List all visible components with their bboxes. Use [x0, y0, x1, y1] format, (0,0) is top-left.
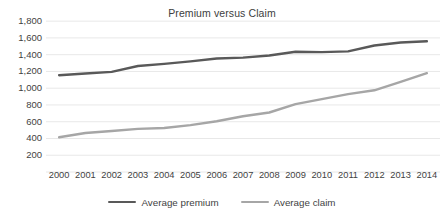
- x-axis-tick-label: 2014: [414, 170, 440, 186]
- x-axis-tick-label: 2013: [387, 170, 413, 186]
- chart-container: Premium versus Claim 2004006008001,0001,…: [0, 0, 444, 218]
- x-axis-tick-label: 2010: [309, 170, 335, 186]
- x-axis-tick-label: 2001: [72, 170, 98, 186]
- x-axis-tick-label: 2008: [256, 170, 282, 186]
- legend-label: Average claim: [274, 197, 336, 208]
- x-axis-tick-label: 2012: [361, 170, 387, 186]
- legend-swatch-icon: [108, 201, 136, 204]
- legend-label: Average premium: [141, 197, 218, 208]
- legend-item[interactable]: Average premium: [108, 197, 218, 208]
- x-axis-tick-label: 2005: [177, 170, 203, 186]
- x-axis-tick-label: 2002: [99, 170, 125, 186]
- legend-item[interactable]: Average claim: [241, 197, 336, 208]
- plot-area: [0, 0, 444, 180]
- plot-svg: [0, 0, 444, 180]
- x-axis-tick-label: 2006: [204, 170, 230, 186]
- series-lines: [59, 41, 427, 137]
- x-axis: 2000200120022003200420052006200720082009…: [46, 170, 440, 186]
- x-axis-tick-label: 2007: [230, 170, 256, 186]
- legend-swatch-icon: [241, 201, 269, 204]
- x-axis-tick-label: 2003: [125, 170, 151, 186]
- x-axis-tick-label: 2004: [151, 170, 177, 186]
- x-axis-tick-label: 2011: [335, 170, 361, 186]
- series-line-average-premium: [59, 41, 427, 75]
- x-axis-tick-label: 2000: [46, 170, 72, 186]
- x-axis-tick-label: 2009: [282, 170, 308, 186]
- chart-legend: Average premiumAverage claim: [0, 192, 444, 212]
